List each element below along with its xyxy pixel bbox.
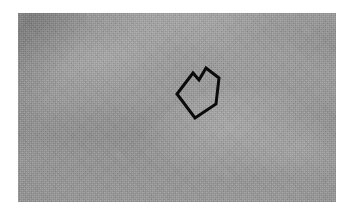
arrow-icon bbox=[177, 68, 219, 118]
annotation-overlay bbox=[18, 13, 336, 202]
figure-root bbox=[0, 0, 351, 212]
photograph-plate bbox=[18, 13, 336, 202]
